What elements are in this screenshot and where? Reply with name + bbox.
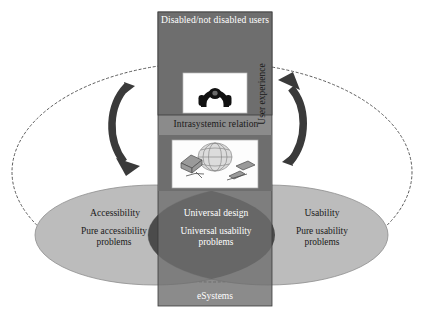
usability-body-line1: Pure usability (256, 226, 388, 237)
universal-design-title: Universal design (162, 207, 270, 218)
accessibility-title: Accessibility (55, 207, 175, 218)
diagram-canvas: Disabled/not disabled users Intrasystemi… (0, 0, 421, 322)
cycle-arrows-layer (0, 0, 421, 322)
disabled-users-label: Disabled/not disabled users (158, 14, 272, 25)
usability-body: Pure usability problems (256, 226, 388, 248)
user-experience-label: User experience (257, 34, 268, 154)
usability-title: Usability (262, 207, 382, 218)
esystems-label: eSystems (158, 291, 272, 302)
usability-body-line2: problems (256, 237, 388, 248)
intrasystemic-relation-label: Intrasystemic relation (130, 119, 302, 130)
